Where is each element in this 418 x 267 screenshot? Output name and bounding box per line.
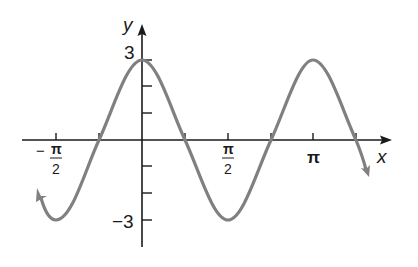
cosine-graph: y 3 −3 x − π 2 π 2 π [0, 0, 418, 267]
y-tick-label-3: 3 [124, 42, 135, 63]
svg-text:2: 2 [224, 161, 232, 177]
x-tick-label-neg-half-pi: − π 2 [36, 141, 62, 177]
x-axis [22, 136, 392, 145]
svg-text:2: 2 [52, 161, 60, 177]
y-axis-label: y [121, 14, 134, 35]
y-tick-label-neg3: −3 [112, 211, 134, 232]
x-tick-label-half-pi: π 2 [222, 141, 234, 177]
svg-text:−: − [36, 142, 45, 159]
svg-text:π: π [223, 141, 234, 157]
x-tick-label-pi: π [307, 148, 320, 167]
y-axis [138, 24, 147, 247]
svg-text:π: π [51, 141, 62, 157]
x-axis-label: x [376, 146, 388, 167]
